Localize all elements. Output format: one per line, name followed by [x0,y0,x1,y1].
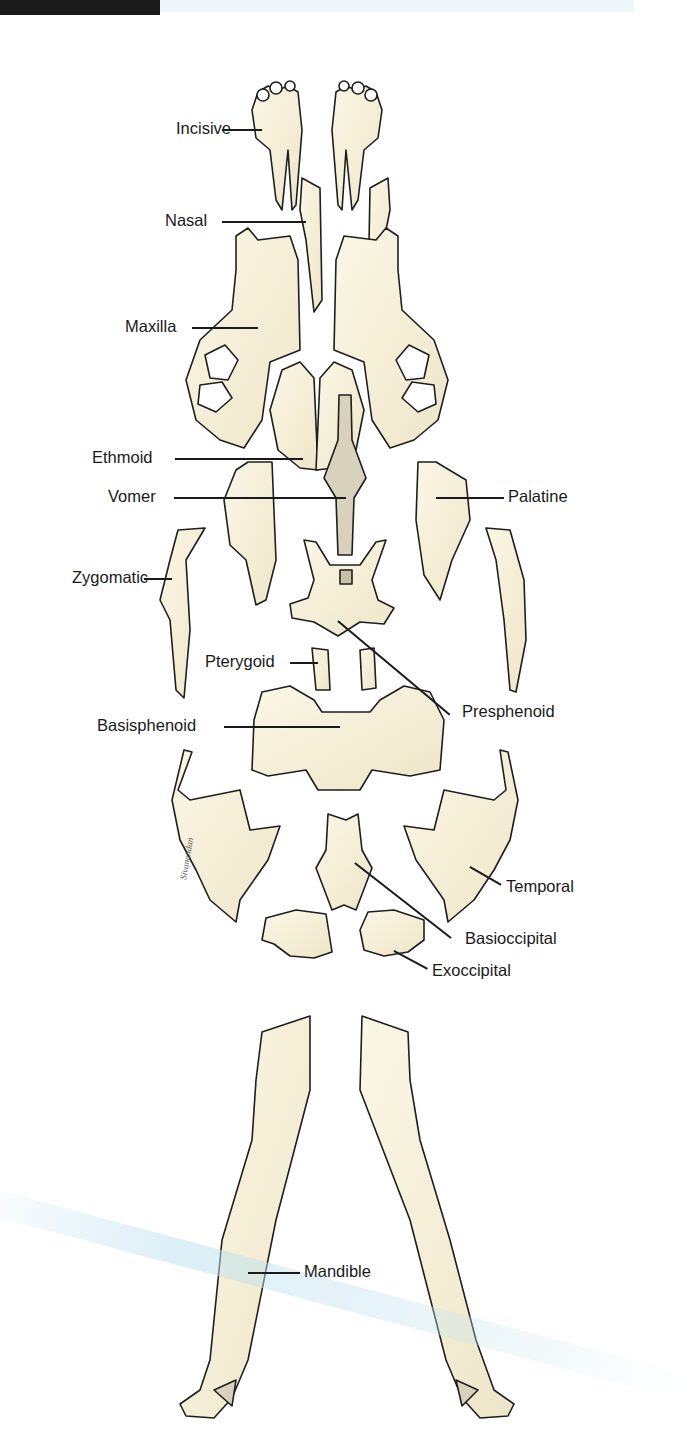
nasal-left-bone [300,178,322,312]
leader-pterygoid [290,662,318,664]
ethmoid-left-bone [270,362,318,470]
temporal-left-bone [172,750,280,922]
label-exoccipital: Exoccipital [432,962,511,979]
zygomatic-right-bone [486,528,526,692]
leader-zygomatic [144,578,172,580]
leader-vomer [174,497,346,499]
label-palatine: Palatine [508,488,568,505]
exoccipital-left-bone [262,910,332,958]
basisphenoid-bone [252,686,444,790]
basioccipital-bone [316,814,372,910]
label-nasal: Nasal [165,212,207,229]
leader-mandible [248,1272,300,1274]
leader-incisive [222,129,262,131]
leader-ethmoid [175,458,303,460]
leader-palatine [436,497,504,499]
mandible-right-bone [360,1016,514,1418]
palatine-right-bone [416,462,470,600]
label-temporal: Temporal [506,878,574,895]
incisive-left-bone [252,81,302,210]
temporal-right-bone [404,750,518,922]
pterygoid-left-bone [312,648,330,690]
label-mandible: Mandible [304,1263,371,1280]
label-basioccipital: Basioccipital [465,930,557,947]
zygomatic-left-bone [160,528,205,698]
leader-maxilla [192,327,258,329]
label-ethmoid: Ethmoid [92,449,153,466]
label-pterygoid: Pterygoid [205,653,275,670]
label-maxilla: Maxilla [125,318,176,335]
label-basisphenoid: Basisphenoid [97,717,196,734]
palatine-left-bone [224,462,276,605]
mandible-left-bone [180,1016,310,1418]
leader-basisphenoid [224,726,340,728]
label-vomer: Vomer [108,488,156,505]
label-zygomatic: Zygomatic [72,569,148,586]
label-presphenoid: Presphenoid [462,703,555,720]
leader-nasal [222,221,306,223]
pterygoid-right-bone [360,648,376,690]
exoccipital-right-bone [360,910,424,956]
